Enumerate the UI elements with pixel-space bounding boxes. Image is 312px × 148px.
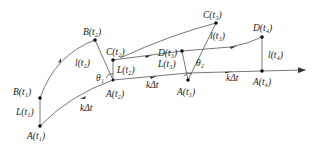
- label-b-t1: B(t₁): [13, 87, 31, 98]
- label-l-t3-upper: l(t₃): [210, 31, 225, 42]
- point-a-t2: [112, 79, 115, 82]
- point-c-t3: [214, 21, 218, 25]
- point-b-t1: [38, 96, 42, 100]
- point-a-t1: [38, 124, 42, 128]
- trajectory-diagram: A(t₁) B(t₁) L(t₁) B(t₂) l(t₂) C(t₂) L(t₂…: [0, 0, 312, 148]
- label-l-t4: l(t₄): [268, 50, 283, 61]
- label-d-t3: D(t₃): [157, 48, 177, 59]
- label-k-delta-t-1: kΔt: [80, 103, 93, 113]
- label-theta2: θ₂: [196, 58, 205, 68]
- label-a-t2: A(t₂): [105, 89, 124, 100]
- point-b-t2: [93, 38, 97, 42]
- point-d-t4: [260, 35, 264, 39]
- label-c-t2: C(t₂): [106, 47, 125, 58]
- label-d-t4: D(t₄): [252, 23, 272, 34]
- main-trajectory-curve: [40, 80, 113, 126]
- label-l-t3: L(t₃): [157, 59, 176, 70]
- b-trajectory-curve: [40, 40, 95, 98]
- label-a-t1: A(t₁): [26, 131, 45, 142]
- main-trajectory-line: [113, 70, 305, 80]
- point-a-t4: [260, 69, 264, 73]
- point-a-t3: [186, 78, 190, 82]
- label-l-t1: L(t₁): [15, 107, 34, 118]
- label-k-delta-t-3: kΔt: [226, 73, 239, 83]
- label-a-t3: A(t₃): [176, 87, 195, 98]
- arrow-icon: [80, 96, 86, 99]
- label-l-t2: L(t₂): [116, 65, 135, 76]
- label-a-t4: A(t₄): [252, 77, 271, 88]
- point-d-t3: [180, 49, 184, 53]
- point-c-t2: [111, 58, 115, 62]
- label-c-t3: C(t₃): [203, 10, 222, 21]
- label-l-t2-lower: l(t₂): [75, 58, 90, 69]
- label-k-delta-t-2: kΔt: [146, 80, 159, 90]
- label-b-t2: B(t₂): [83, 27, 101, 38]
- label-theta1: θ₁: [96, 73, 104, 83]
